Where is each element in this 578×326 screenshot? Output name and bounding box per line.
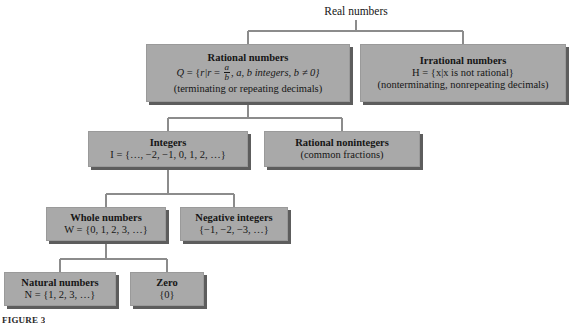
root-node-real-numbers: Real numbers	[296, 5, 416, 17]
node-natural-numbers-title: Natural numbers	[21, 277, 98, 289]
fraction-denominator: b	[224, 72, 231, 82]
rational-formula-condition: r|r	[200, 66, 211, 77]
fraction-numerator: a	[224, 63, 231, 72]
node-negative-integers-title: Negative integers	[195, 212, 272, 224]
rational-formula-tail: , a, b integers, b ≠ 0}	[231, 66, 319, 77]
node-rational-numbers: Rational numbers Q = {r|r = ab, a, b int…	[146, 44, 350, 102]
rational-formula-equals: =	[211, 66, 222, 77]
real-number-classification-diagram: Real numbers Rational numbers Q = {r|r =…	[0, 0, 578, 326]
rational-formula-open: = {	[184, 66, 200, 77]
node-zero-formula: {0}	[159, 289, 174, 301]
node-rational-nonintegers-subtitle: (common fractions)	[300, 149, 383, 161]
node-natural-numbers-formula: N = {1, 2, 3, …}	[25, 289, 96, 301]
node-irrational-numbers-title: Irrational numbers	[420, 55, 507, 67]
node-zero: Zero {0}	[130, 272, 204, 306]
node-natural-numbers: Natural numbers N = {1, 2, 3, …}	[4, 272, 116, 306]
fraction-a-over-b: ab	[224, 63, 231, 82]
node-whole-numbers-title: Whole numbers	[70, 212, 141, 224]
node-negative-integers: Negative integers {−1, −2, −3, …}	[180, 207, 288, 241]
node-integers-title: Integers	[150, 137, 187, 149]
node-rational-numbers-formula: Q = {r|r = ab, a, b integers, b ≠ 0}	[177, 64, 320, 83]
node-irrational-numbers: Irrational numbers H = {x|x is not ratio…	[360, 44, 566, 102]
node-irrational-numbers-subtitle: (nonterminating, nonrepeating decimals)	[377, 79, 548, 91]
node-integers: Integers I = {…, −2, −1, 0, 1, 2, …}	[88, 131, 248, 167]
node-rational-nonintegers: Rational nonintegers (common fractions)	[264, 131, 420, 167]
rational-set-symbol: Q	[177, 66, 185, 77]
node-rational-nonintegers-title: Rational nonintegers	[295, 137, 389, 149]
node-zero-title: Zero	[156, 277, 177, 289]
node-rational-numbers-title: Rational numbers	[208, 52, 289, 64]
node-irrational-numbers-formula: H = {x|x is not rational}	[412, 67, 514, 79]
node-negative-integers-formula: {−1, −2, −3, …}	[199, 224, 269, 236]
node-whole-numbers-formula: W = {0, 1, 2, 3, …}	[64, 224, 147, 236]
figure-caption: FIGURE 3	[2, 315, 45, 326]
node-integers-formula: I = {…, −2, −1, 0, 1, 2, …}	[110, 149, 225, 161]
node-rational-numbers-subtitle: (terminating or repeating decimals)	[174, 83, 322, 95]
node-whole-numbers: Whole numbers W = {0, 1, 2, 3, …}	[46, 207, 166, 241]
